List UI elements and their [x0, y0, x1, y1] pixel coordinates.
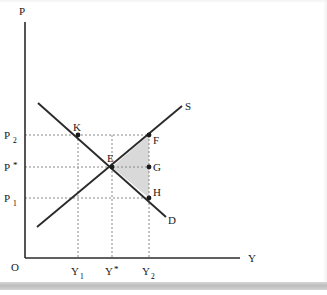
top-edge-shade: [0, 0, 327, 3]
tick-label-y2-sub: 2: [151, 272, 155, 281]
origin-label: O: [11, 261, 19, 273]
point-f-marker: [147, 133, 152, 138]
tick-label-pstar-base: P: [4, 161, 10, 173]
tick-label-p1: P 1: [4, 192, 17, 208]
point-g-label: G: [153, 161, 161, 173]
tick-label-y1-base: Y: [71, 265, 79, 277]
point-k-marker: [76, 133, 81, 138]
tick-label-y1: Y 1: [71, 265, 84, 281]
tick-label-p1-base: P: [4, 192, 10, 204]
supply-demand-figure: P Y O P 2 P * P 1 Y 1 Y * Y 2 S D: [0, 0, 327, 295]
x-axis-label: Y: [248, 252, 256, 264]
tick-label-y2-base: Y: [142, 265, 150, 277]
point-f-label: F: [153, 134, 159, 146]
tick-label-y2: Y 2: [142, 265, 155, 281]
bottom-gray-band: [0, 282, 327, 290]
point-k-label: K: [73, 121, 81, 133]
right-edge-shade: [323, 0, 327, 282]
supply-demand-chart: P Y O P 2 P * P 1 Y 1 Y * Y 2 S D: [0, 0, 327, 295]
point-h-label: H: [153, 186, 161, 198]
supply-curve-label: S: [185, 100, 191, 112]
point-h-marker: [147, 196, 152, 201]
tick-label-y1-sub: 1: [80, 272, 84, 281]
tick-label-p2-sub: 2: [13, 136, 17, 145]
y-axis-label: P: [19, 5, 25, 17]
tick-label-p1-sub: 1: [13, 199, 17, 208]
tick-label-pstar: P *: [4, 160, 18, 173]
demand-curve-label: D: [168, 214, 176, 226]
tick-label-ystar: Y *: [105, 264, 119, 277]
point-g-marker: [147, 165, 152, 170]
point-e-marker: [110, 165, 115, 170]
tick-label-p2: P 2: [4, 129, 17, 145]
tick-label-p2-base: P: [4, 129, 10, 141]
tick-label-ystar-sup: *: [114, 264, 119, 274]
tick-label-ystar-base: Y: [105, 265, 113, 277]
tick-label-pstar-sup: *: [13, 160, 18, 170]
point-e-label: E: [107, 152, 114, 164]
